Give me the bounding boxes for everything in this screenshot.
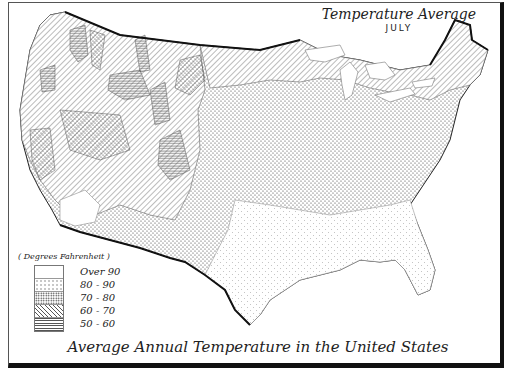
map-subtitle: JULY [322, 23, 476, 33]
legend-label: 70 - 80 [80, 291, 120, 304]
legend: ( Degrees Fahrenheit ) Over 90 80 - 90 7… [14, 252, 124, 332]
swatch-horizontal-hatch [35, 318, 63, 331]
swatch-diagonal-hatch [35, 305, 63, 318]
legend-label: Over 90 [80, 265, 120, 278]
swatch-dense-dots [35, 292, 63, 305]
map-title: Temperature Average [322, 6, 476, 22]
legend-label: 60 - 70 [80, 304, 120, 317]
map-title-block: Temperature Average JULY [322, 6, 476, 33]
map-caption: Average Annual Temperature in the United… [0, 338, 516, 356]
swatch-blank [35, 266, 63, 279]
legend-swatches [34, 265, 64, 332]
legend-heading: ( Degrees Fahrenheit ) [18, 252, 124, 261]
swatch-sparse-dots [35, 279, 63, 292]
legend-label: 80 - 90 [80, 278, 120, 291]
legend-label: 50 - 60 [80, 317, 120, 330]
